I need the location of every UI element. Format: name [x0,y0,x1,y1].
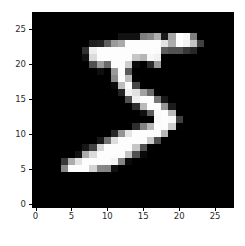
image-pixel [211,61,218,68]
y-tick-mark [29,204,32,205]
image-pixel [197,47,204,54]
image-pixel [97,179,104,186]
image-pixel [97,137,104,144]
image-pixel [89,61,96,68]
image-pixel [226,165,233,172]
image-pixel [32,61,39,68]
image-pixel [97,89,104,96]
image-pixel [132,116,139,123]
image-pixel [226,68,233,75]
image-pixel [46,12,53,19]
image-pixel [104,68,111,75]
image-pixel [54,186,61,193]
image-pixel [46,200,53,207]
image-pixel [204,172,211,179]
image-pixel [204,179,211,186]
image-pixel [219,19,226,26]
image-pixel [46,110,53,117]
image-pixel [147,193,154,200]
image-pixel [204,123,211,130]
image-pixel [46,96,53,103]
image-pixel [82,110,89,117]
image-pixel [46,33,53,40]
image-pixel [46,47,53,54]
image-pixel [161,12,168,19]
image-pixel [32,144,39,151]
image-pixel [154,54,161,61]
image-pixel [54,33,61,40]
image-pixel [118,61,125,68]
image-pixel [39,54,46,61]
image-pixel [211,89,218,96]
image-pixel [226,26,233,33]
image-pixel [161,47,168,54]
image-pixel [190,47,197,54]
image-pixel [32,193,39,200]
image-pixel [82,26,89,33]
image-pixel [147,103,154,110]
image-pixel [168,193,175,200]
image-pixel [161,33,168,40]
image-pixel [97,68,104,75]
image-pixel [39,103,46,110]
image-pixel [197,103,204,110]
image-pixel [147,200,154,207]
image-pixel [82,103,89,110]
image-pixel [39,186,46,193]
image-pixel [75,137,82,144]
image-pixel [168,103,175,110]
image-pixel [219,82,226,89]
image-pixel [140,96,147,103]
image-pixel [161,89,168,96]
image-pixel [161,186,168,193]
image-pixel [226,12,233,19]
image-pixel [132,158,139,165]
image-pixel [111,61,118,68]
image-pixel [32,19,39,26]
image-pixel [226,186,233,193]
image-pixel [211,19,218,26]
image-pixel [75,33,82,40]
image-pixel [46,103,53,110]
image-pixel [183,82,190,89]
image-pixel [140,68,147,75]
image-pixel [176,186,183,193]
image-pixel [75,200,82,207]
image-pixel [82,158,89,165]
image-pixel [54,172,61,179]
image-pixel [132,12,139,19]
image-pixel [118,200,125,207]
image-pixel [211,26,218,33]
image-pixel [32,110,39,117]
image-pixel [68,158,75,165]
image-pixel [154,68,161,75]
image-pixel [226,200,233,207]
image-pixel [219,165,226,172]
image-pixel [32,158,39,165]
image-pixel [97,61,104,68]
image-pixel [226,82,233,89]
image-pixel [104,179,111,186]
image-pixel [132,33,139,40]
image-pixel [82,33,89,40]
image-pixel [111,75,118,82]
image-pixel [211,110,218,117]
image-pixel [89,172,96,179]
image-pixel [168,110,175,117]
image-pixel [111,110,118,117]
image-pixel [176,96,183,103]
image-pixel [97,144,104,151]
image-pixel [54,12,61,19]
image-pixel [226,103,233,110]
image-pixel [54,123,61,130]
image-pixel [104,12,111,19]
image-pixel [161,172,168,179]
image-pixel [140,26,147,33]
image-pixel [75,75,82,82]
image-pixel [204,193,211,200]
image-pixel [132,47,139,54]
x-tick-label: 10 [102,211,113,221]
image-pixel [54,158,61,165]
image-pixel [39,47,46,54]
image-pixel [118,103,125,110]
